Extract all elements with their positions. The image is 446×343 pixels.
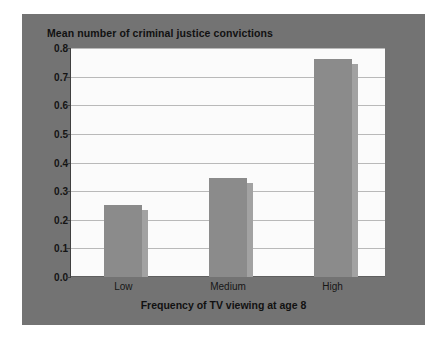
y-tick-label: 0.0 <box>34 272 68 283</box>
bar-medium[interactable] <box>209 178 247 277</box>
bar-shadow <box>352 64 358 277</box>
y-tick-label: 0.3 <box>34 186 68 197</box>
x-tick-label-low: Low <box>114 281 132 292</box>
y-tick-label: 0.8 <box>34 43 68 54</box>
y-axis-tick-labels: 0.00.10.20.30.40.50.60.70.8 <box>30 48 68 277</box>
bar-shadow <box>142 210 148 277</box>
plot-area <box>71 48 385 277</box>
y-tick-mark <box>66 277 71 278</box>
y-tick-label: 0.4 <box>34 157 68 168</box>
gridline-0.8 <box>71 48 385 49</box>
bar-shadow <box>247 183 253 277</box>
y-tick-mark <box>66 77 71 78</box>
y-tick-label: 0.7 <box>34 71 68 82</box>
x-tick-label-high: High <box>322 281 343 292</box>
x-axis-title: Frequency of TV viewing at age 8 <box>22 299 425 311</box>
y-tick-label: 0.6 <box>34 100 68 111</box>
y-tick-mark <box>66 220 71 221</box>
y-tick-mark <box>66 163 71 164</box>
y-tick-label: 0.5 <box>34 128 68 139</box>
chart-figure: Mean number of criminal justice convicti… <box>22 14 425 325</box>
y-tick-mark <box>66 134 71 135</box>
y-tick-label: 0.2 <box>34 214 68 225</box>
bar-high[interactable] <box>314 59 352 277</box>
y-tick-mark <box>66 105 71 106</box>
y-tick-mark <box>66 48 71 49</box>
chart-title: Mean number of criminal justice convicti… <box>47 27 273 39</box>
y-tick-mark <box>66 191 71 192</box>
y-tick-mark <box>66 248 71 249</box>
bar-low[interactable] <box>104 205 142 277</box>
y-tick-label: 0.1 <box>34 243 68 254</box>
x-tick-label-medium: Medium <box>210 281 246 292</box>
